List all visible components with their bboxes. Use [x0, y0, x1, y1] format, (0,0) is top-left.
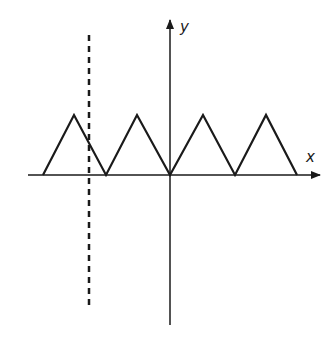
triangle-wave-diagram — [0, 0, 334, 340]
x-axis-label: x — [306, 150, 315, 165]
y-axis-label: y — [180, 20, 189, 35]
